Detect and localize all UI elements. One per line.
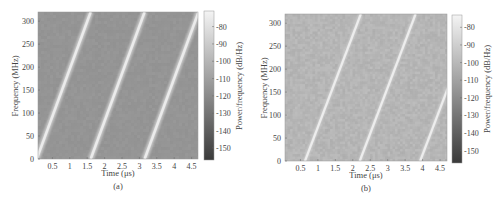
colorbar-tick-label: -130 — [464, 111, 479, 120]
y-axis-label-a: Frequency (MHz) — [10, 55, 20, 116]
x-tick-label: 3.5 — [152, 162, 162, 171]
x-tick-label: 3 — [386, 164, 390, 173]
panel-b: 0.511.522.533.544.5 050100150200250300 T… — [259, 14, 492, 193]
colorbar-tick-label: -120 — [464, 94, 479, 103]
caption-b: (b) — [361, 183, 371, 193]
colorbar-label-a: Power/frequency (dB/Hz) — [234, 42, 244, 130]
x-axis-label-a: Time (μs) — [101, 168, 134, 178]
x-tick-label: 1 — [68, 162, 72, 171]
x-tick-label: 0.5 — [295, 164, 305, 173]
x-tick-label: 3.5 — [400, 164, 410, 173]
colorbar-gradient — [452, 15, 462, 163]
colorbar-tick-label: -110 — [216, 75, 230, 84]
y-tick-label: 150 — [22, 86, 34, 95]
colorbar-tick-label: -140 — [464, 129, 479, 138]
plot-area-b — [285, 14, 476, 162]
colorbar-tick-label: -150 — [216, 144, 231, 153]
figure: 0.511.522.533.544.5 050100150200250300 T… — [0, 0, 504, 198]
y-tick-label: 50 — [26, 132, 34, 141]
y-tick-label: 100 — [269, 111, 281, 120]
y-tick-label: 50 — [273, 134, 281, 143]
y-tick-label: 250 — [22, 40, 34, 49]
colorbar-tick-label: -130 — [216, 109, 231, 118]
colorbar-tick-label: -90 — [216, 40, 227, 49]
y-axis-label-b: Frequency (MHz) — [259, 57, 269, 118]
colorbar-tick-label: -120 — [216, 92, 231, 101]
y-tick-label: 100 — [22, 109, 34, 118]
y-tick-label: 250 — [269, 42, 281, 51]
colorbar-tick-label: -100 — [464, 59, 479, 68]
colorbar-tick-label: -140 — [216, 127, 231, 136]
colorbar-a: -80-90-100-110-120-130-140-150 — [204, 11, 231, 160]
y-tick-label: 200 — [22, 63, 34, 72]
x-axis-label-b: Time (μs) — [349, 170, 382, 180]
colorbar-tick-label: -90 — [464, 41, 475, 50]
colorbar-gradient — [204, 11, 214, 160]
y-tick-label: 0 — [277, 157, 281, 166]
colorbar-b: -80-90-100-110-120-130-140-150 — [452, 15, 479, 163]
x-tick-label: 4 — [172, 162, 176, 171]
panel-a: 0.511.522.533.544.5 050100150200250300 T… — [10, 11, 244, 191]
caption-a: (a) — [113, 181, 123, 191]
colorbar-tick-label: -80 — [216, 23, 227, 32]
x-tick-label: 4.5 — [187, 162, 197, 171]
x-tick-label: 1.5 — [82, 162, 92, 171]
y-tick-label: 0 — [30, 155, 34, 164]
x-tick-label: 4.5 — [435, 164, 445, 173]
y-tick-label: 300 — [269, 19, 281, 28]
colorbar-tick-label: -150 — [464, 147, 479, 156]
y-ticks-b: 050100150200250300 — [269, 19, 287, 166]
x-tick-label: 3 — [137, 162, 141, 171]
colorbar-tick-label: -80 — [464, 23, 475, 32]
colorbar-tick-label: -100 — [216, 57, 231, 66]
y-ticks-a: 050100150200250300 — [22, 17, 40, 164]
colorbar-label-b: Power/frequency (dB/Hz) — [482, 45, 492, 133]
y-tick-label: 300 — [22, 17, 34, 26]
colorbar-tick-label: -110 — [464, 76, 478, 85]
x-tick-label: 1.5 — [330, 164, 340, 173]
plot-area-a — [37, 12, 201, 159]
x-tick-label: 0.5 — [47, 162, 57, 171]
y-tick-label: 200 — [269, 65, 281, 74]
y-tick-label: 150 — [269, 88, 281, 97]
x-tick-label: 1 — [316, 164, 320, 173]
x-tick-label: 4 — [421, 164, 425, 173]
